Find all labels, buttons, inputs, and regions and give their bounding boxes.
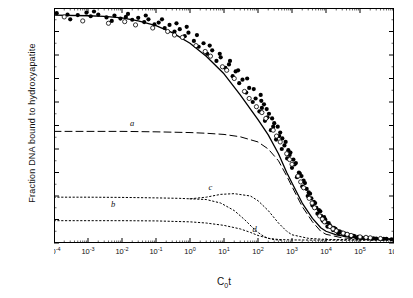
data-point-open	[264, 116, 268, 120]
data-point-filled	[192, 39, 196, 43]
data-point-filled	[267, 112, 271, 116]
x-tick-label: 10-2	[115, 246, 128, 256]
data-point-open	[106, 21, 110, 25]
data-point-filled	[167, 23, 171, 27]
data-point-filled	[186, 31, 190, 35]
data-point-open	[285, 152, 289, 156]
data-point-filled	[142, 20, 146, 24]
data-point-open	[62, 15, 66, 19]
data-point-filled	[160, 17, 164, 21]
data-point-filled	[272, 121, 276, 125]
data-point-filled	[89, 14, 93, 18]
curve-label-c: c	[209, 182, 213, 192]
x-tick-label: 103	[286, 246, 297, 256]
x-axis-label-tail: t	[228, 276, 231, 287]
data-point-filled	[163, 26, 167, 30]
x-tick-label: 100	[184, 246, 195, 256]
x-tick-label: 101	[218, 246, 229, 256]
data-point-open	[312, 206, 316, 210]
data-point-filled	[270, 116, 274, 120]
data-point-open	[260, 110, 264, 114]
data-point-filled	[126, 12, 130, 16]
chart-figure: Fraction DNA bound to hydroxyapatite abc…	[0, 0, 413, 298]
curve-a-dashed	[54, 131, 394, 239]
data-point-open	[368, 236, 372, 240]
chart-svg: abcd 10-410-310-210-11001011021031041051…	[54, 8, 394, 255]
data-point-filled	[390, 237, 394, 241]
data-point-filled	[219, 55, 223, 59]
data-point-filled	[284, 140, 288, 144]
data-point-filled	[276, 125, 280, 129]
data-point-filled	[214, 59, 218, 63]
data-point-open	[345, 232, 349, 236]
data-point-filled	[92, 9, 96, 13]
data-point-open	[123, 20, 127, 24]
x-tick-label: 10-3	[81, 246, 94, 256]
data-point-open	[133, 23, 137, 27]
data-point-open	[320, 217, 324, 221]
data-point-filled	[146, 17, 150, 21]
data-point-filled	[96, 12, 100, 16]
curves-layer	[54, 15, 394, 240]
data-point-open	[349, 233, 353, 237]
x-tick-label: 106	[388, 246, 394, 256]
curve-label-d: d	[253, 224, 258, 234]
data-point-filled	[252, 87, 256, 91]
data-point-filled	[228, 59, 232, 63]
data-point-filled	[55, 11, 59, 15]
data-point-open	[364, 235, 368, 239]
data-point-filled	[259, 93, 263, 97]
data-point-open	[172, 33, 176, 37]
data-point-open	[203, 49, 207, 53]
data-point-open	[220, 65, 224, 69]
data-point-filled	[218, 52, 222, 56]
data-point-filled	[208, 44, 212, 48]
data-point-filled	[130, 18, 134, 22]
data-point-filled	[210, 48, 214, 52]
data-point-filled	[245, 76, 249, 80]
data-point-open	[166, 29, 170, 33]
x-tick-label: 102	[252, 246, 263, 256]
data-point-filled	[104, 15, 108, 19]
x-tick-label: 10-4	[54, 246, 61, 256]
data-point-filled	[240, 78, 244, 82]
data-point-open	[225, 68, 229, 72]
data-point-open	[290, 162, 294, 166]
data-point-open	[242, 89, 246, 93]
data-point-filled	[254, 96, 258, 100]
y-axis-label: Fraction DNA bound to hydroxyapatite	[27, 23, 37, 223]
x-tick-label: 105	[354, 246, 365, 256]
curve-label-b: b	[111, 199, 115, 209]
data-point-filled	[278, 130, 282, 134]
data-point-filled	[112, 13, 116, 17]
data-point-filled	[157, 20, 161, 24]
data-point-open	[271, 128, 275, 132]
data-point-open	[378, 236, 382, 240]
data-point-filled	[259, 99, 263, 103]
data-point-filled	[185, 25, 189, 29]
data-point-filled	[178, 27, 182, 31]
data-point-open	[278, 140, 282, 144]
data-point-filled	[280, 147, 284, 151]
data-point-filled	[68, 17, 72, 21]
data-point-open	[341, 231, 345, 235]
curve-labels-layer: abcd	[111, 118, 258, 235]
data-point-open	[208, 54, 212, 58]
data-point-filled	[237, 81, 241, 85]
data-point-filled	[144, 13, 148, 17]
data-point-open	[299, 180, 303, 184]
data-point-open	[254, 105, 258, 109]
data-point-open	[247, 96, 251, 100]
data-point-open	[307, 196, 311, 200]
plot-frame	[55, 9, 394, 243]
data-point-filled	[84, 11, 88, 15]
data-point-filled	[262, 102, 266, 106]
data-point-open	[180, 35, 184, 39]
data-point-filled	[201, 41, 205, 45]
data-point-filled	[136, 16, 140, 20]
data-point-open	[81, 19, 85, 23]
data-point-filled	[236, 68, 240, 72]
data-point-filled	[307, 190, 311, 194]
data-point-open	[288, 157, 292, 161]
data-point-filled	[251, 100, 255, 104]
